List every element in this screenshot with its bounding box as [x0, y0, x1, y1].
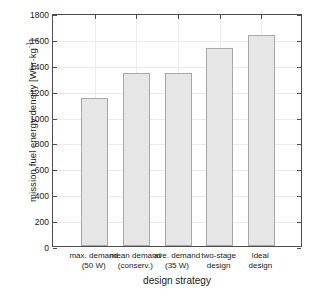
y-axis-tick-mark — [53, 144, 57, 145]
bar — [248, 35, 275, 246]
bar — [206, 48, 233, 246]
x-axis-tick-mark-top — [261, 15, 262, 19]
x-axis-tick-mark-top — [178, 15, 179, 19]
plot-area: 020040060080010001200140016001800 — [52, 14, 302, 247]
bar — [123, 73, 150, 246]
y-axis-tick-mark-right — [297, 67, 301, 68]
y-axis-tick-mark-right — [297, 248, 301, 249]
y-axis-tick-mark — [53, 119, 57, 120]
y-axis-tick-mark-right — [297, 119, 301, 120]
y-axis-tick-mark — [53, 196, 57, 197]
y-axis-tick-label: 1800 — [30, 10, 49, 20]
x-axis-title: design strategy — [52, 275, 302, 286]
x-axis-tick-label: ave. demand(35 W) — [154, 251, 200, 271]
y-axis-tick-mark — [53, 15, 57, 16]
y-axis-tick-label: 200 — [35, 217, 49, 227]
y-axis-tick-mark — [53, 222, 57, 223]
x-axis-tick-label-line: ave. demand — [154, 251, 200, 261]
x-axis-tick-label: two-stagedesign — [201, 251, 236, 271]
y-axis-tick-mark-right — [297, 222, 301, 223]
y-axis-tick-mark — [53, 170, 57, 171]
y-axis-tick-mark-right — [297, 170, 301, 171]
y-axis-tick-mark — [53, 93, 57, 94]
y-axis-tick-mark-right — [297, 196, 301, 197]
x-axis-tick-label-line: ideal — [249, 251, 273, 261]
y-axis-tick-label: 1600 — [30, 36, 49, 46]
y-axis-tick-mark — [53, 67, 57, 68]
x-axis-tick-mark-top — [95, 15, 96, 19]
bar-chart-figure: mission fuel energy density [Whr·kg-1] 0… — [0, 0, 311, 296]
y-axis-tick-label: 1200 — [30, 88, 49, 98]
y-axis-tick-mark — [53, 248, 57, 249]
y-axis-tick-mark-right — [297, 144, 301, 145]
bar — [81, 98, 108, 246]
x-axis-tick-mark-top — [136, 15, 137, 19]
y-axis-tick-mark-right — [297, 41, 301, 42]
y-axis-tick-mark — [53, 41, 57, 42]
x-axis-tick-label-line: two-stage — [201, 251, 236, 261]
y-axis-tick-label: 1400 — [30, 62, 49, 72]
x-axis-tick-label-line: design — [249, 261, 273, 271]
y-axis-tick-label: 0 — [44, 243, 49, 253]
x-axis-tick-mark-top — [220, 15, 221, 19]
y-axis-tick-label: 800 — [35, 139, 49, 149]
y-axis-tick-label: 400 — [35, 191, 49, 201]
x-axis-tick-label-line: design — [201, 261, 236, 271]
x-axis-tick-label-line: (35 W) — [154, 261, 200, 271]
x-axis-tick-label: idealdesign — [249, 251, 273, 271]
y-axis-tick-label: 600 — [35, 165, 49, 175]
y-axis-tick-mark-right — [297, 93, 301, 94]
y-axis-tick-label: 1000 — [30, 114, 49, 124]
bar — [165, 73, 192, 246]
y-axis-tick-mark-right — [297, 15, 301, 16]
